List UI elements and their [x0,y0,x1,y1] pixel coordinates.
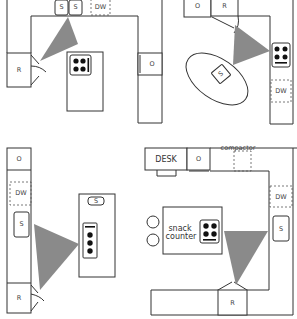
svg-text:DW: DW [275,193,287,201]
oven: O [184,0,211,17]
snack-counter: snack counter [163,207,222,254]
dishwasher: DW [271,80,291,102]
svg-text:S: S [73,3,77,11]
work-triangle [34,224,79,290]
layout-l-shape-oval-island: O R DW S [177,0,293,124]
refrigerator: R [7,53,46,87]
svg-text:DESK: DESK [155,155,177,164]
fridge-door-swing [31,55,39,85]
cooktop [272,43,290,67]
svg-text:O: O [16,155,21,163]
svg-text:O: O [195,2,200,10]
desk-chair [157,170,176,176]
fridge-door-swing [218,282,247,290]
oven: O [138,53,162,75]
fridge-door-arc [31,294,44,301]
island-sink: S [211,64,231,84]
svg-text:DW: DW [95,3,107,11]
work-triangle [233,25,270,65]
fridge-door [212,17,234,28]
svg-text:R: R [222,2,227,10]
svg-text:S: S [59,3,63,11]
svg-text:compactor: compactor [221,144,256,152]
desk: DESK [145,148,187,176]
island [67,52,103,111]
svg-text:counter: counter [166,232,197,241]
compactor: compactor [221,144,256,171]
svg-text:O: O [196,155,201,163]
work-triangle [224,231,268,285]
layout-u-shape-island: R S S DW O [7,0,162,123]
svg-text:O: O [149,60,154,68]
dishwasher: DW [270,186,292,207]
island: S [79,194,115,277]
svg-text:R: R [17,66,22,74]
svg-text:S: S [19,220,23,228]
sink: S [273,216,289,241]
svg-text:R: R [17,294,22,302]
stool [147,234,159,246]
layout-u-shape-snack-counter: DESK O compactor DW S snack counter [145,144,297,315]
svg-text:S: S [279,225,283,233]
double-sink: S S [55,0,82,15]
bottom-counter: R [151,282,293,315]
oven: O [187,148,210,171]
sink: S [14,212,29,237]
refrigerator: R [211,0,239,33]
stool [147,216,159,228]
svg-text:DW: DW [275,87,287,95]
svg-text:DW: DW [15,189,27,197]
fridge-door-swing [31,285,38,311]
svg-text:R: R [230,299,235,307]
svg-text:S: S [94,197,98,205]
fridge-door-arc [31,66,46,72]
layout-galley-island: O DW S R S [7,148,115,313]
dishwasher: DW [91,0,110,15]
kitchen-layouts-diagram: R S S DW O [0,0,297,319]
